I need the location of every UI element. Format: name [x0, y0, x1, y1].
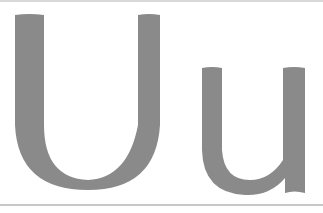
bottom-rule: [0, 204, 323, 206]
letter-specimen: U: [0, 0, 323, 213]
uppercase-u-glyph: [15, 14, 160, 190]
lowercase-u-glyph: [202, 67, 305, 195]
